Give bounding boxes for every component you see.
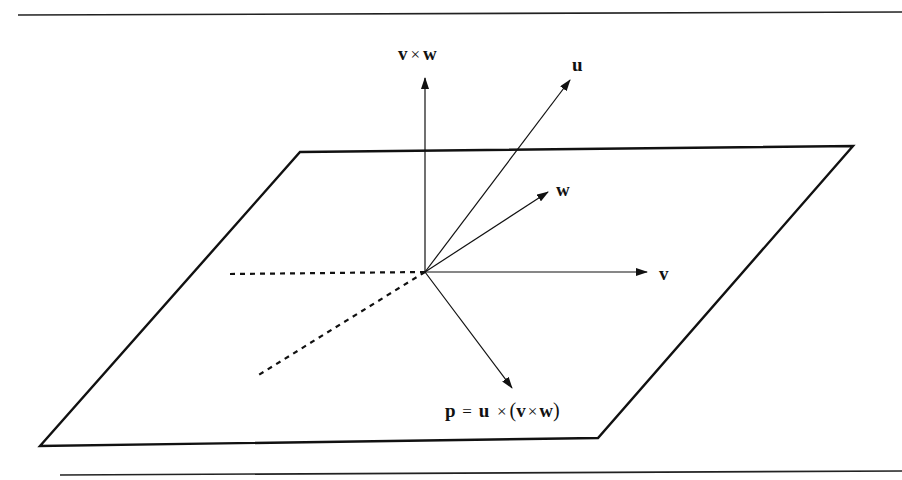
- label-w: w: [423, 43, 437, 64]
- label-u: u: [572, 55, 583, 74]
- label-v-vector: v: [659, 264, 669, 283]
- vector-u: [425, 80, 570, 272]
- label-p-u: u: [479, 400, 490, 421]
- vector-w: [425, 192, 548, 272]
- label-cross-2: ×: [528, 402, 538, 421]
- bottom-rule: [60, 471, 902, 475]
- vector-p: [425, 272, 512, 388]
- label-v-cross-w: v×w: [398, 44, 437, 63]
- label-p-w: w: [539, 400, 553, 421]
- label-equals: =: [462, 402, 472, 421]
- label-v: v: [398, 43, 408, 64]
- dashed-line-lower-left: [257, 272, 425, 376]
- label-p-v: v: [516, 400, 526, 421]
- label-p-equation: p = u ×(v×w): [445, 400, 560, 420]
- top-rule: [18, 12, 902, 15]
- label-p: p: [445, 400, 456, 421]
- label-close-paren: ): [553, 399, 560, 421]
- label-w-vector: w: [556, 180, 570, 199]
- label-cross-operator: ×: [411, 45, 421, 64]
- dashed-line-left: [230, 272, 425, 274]
- label-cross-1: ×: [497, 402, 507, 421]
